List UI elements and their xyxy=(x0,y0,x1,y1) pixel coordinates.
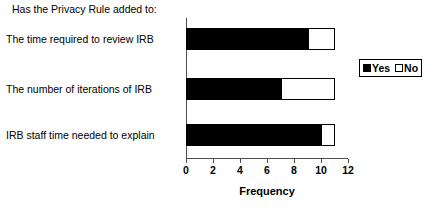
x-tick-10 xyxy=(321,159,322,163)
x-tick-label-6: 6 xyxy=(264,164,270,176)
x-tick-label-0: 0 xyxy=(183,164,189,176)
x-tick-label-12: 12 xyxy=(342,164,354,176)
x-tick-12 xyxy=(348,159,349,163)
legend-entry-no: No xyxy=(395,62,418,74)
x-tick-label-4: 4 xyxy=(237,164,243,176)
bar-row xyxy=(186,78,348,100)
legend: Yes No xyxy=(359,59,422,77)
category-label-0: The time required to review IRB xyxy=(6,33,186,45)
bar-segment-yes xyxy=(186,28,308,50)
x-tick-8 xyxy=(294,159,295,163)
bar-chart: Has the Privacy Rule added to: The time … xyxy=(0,0,439,211)
legend-entry-yes: Yes xyxy=(363,62,390,74)
legend-swatch-yes-icon xyxy=(363,64,371,72)
category-label-1: The number of iterations of IRB xyxy=(6,83,186,95)
x-tick-label-10: 10 xyxy=(315,164,327,176)
x-tick-4 xyxy=(240,159,241,163)
plot-area: 024681012 xyxy=(186,18,348,158)
bar-segment-yes xyxy=(186,78,281,100)
bar-segment-no xyxy=(308,28,335,50)
x-tick-label-8: 8 xyxy=(291,164,297,176)
legend-swatch-no-icon xyxy=(395,64,403,72)
bar-row xyxy=(186,124,348,146)
bar-segment-no xyxy=(281,78,335,100)
x-tick-label-2: 2 xyxy=(210,164,216,176)
x-axis-title: Frequency xyxy=(186,185,348,197)
x-tick-6 xyxy=(267,159,268,163)
bar-segment-yes xyxy=(186,124,321,146)
x-tick-2 xyxy=(213,159,214,163)
category-labels: The time required to review IRB The numb… xyxy=(0,0,186,211)
legend-label-no: No xyxy=(404,62,418,74)
legend-label-yes: Yes xyxy=(372,62,390,74)
category-label-2: IRB staff time needed to explain xyxy=(6,129,186,141)
bar-segment-no xyxy=(321,124,335,146)
bar-row xyxy=(186,28,348,50)
x-tick-0 xyxy=(186,159,187,163)
